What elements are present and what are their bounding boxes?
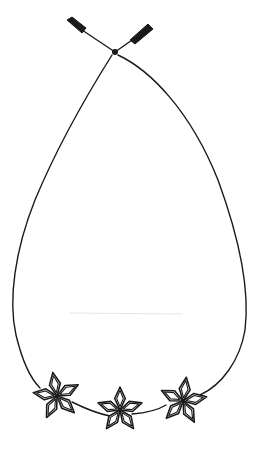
star-flower-left	[30, 368, 82, 419]
petal-outline	[166, 399, 183, 420]
cord-end-right	[115, 24, 153, 52]
pendant-group	[30, 368, 209, 428]
necklace-cord-left	[13, 55, 112, 388]
star-flower-right	[158, 374, 209, 423]
knot	[112, 49, 118, 55]
necklace-cord-right	[118, 55, 246, 395]
necklace-drawing	[0, 0, 256, 460]
petal-outline	[57, 394, 74, 416]
scan-artifact-line	[70, 313, 182, 314]
star-flower-center	[98, 387, 142, 429]
cord-end-left	[67, 17, 115, 52]
